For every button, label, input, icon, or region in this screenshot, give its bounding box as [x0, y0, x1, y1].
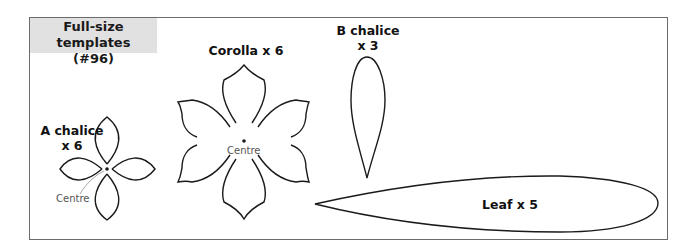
a-chalice-label: A chalice x 6 [40, 123, 104, 153]
a-chalice-centre-label: Centre [56, 193, 89, 204]
b-chalice-label-line-2: x 3 [333, 38, 403, 53]
b-chalice-label-line-1: B chalice [333, 23, 403, 38]
a-chalice-centre-dot [105, 167, 109, 171]
b-chalice-label: B chalice x 3 [333, 23, 403, 53]
a-chalice-label-line-2: x 6 [40, 138, 104, 153]
corolla-label: Corolla x 6 [196, 43, 296, 58]
a-chalice-label-line-1: A chalice [40, 123, 104, 138]
leaf-label: Leaf x 5 [470, 197, 550, 212]
corolla-centre-dot [242, 139, 246, 143]
corolla-centre-label: Centre [227, 145, 260, 156]
b-chalice-shape [351, 57, 385, 178]
corolla-shape [178, 65, 309, 219]
